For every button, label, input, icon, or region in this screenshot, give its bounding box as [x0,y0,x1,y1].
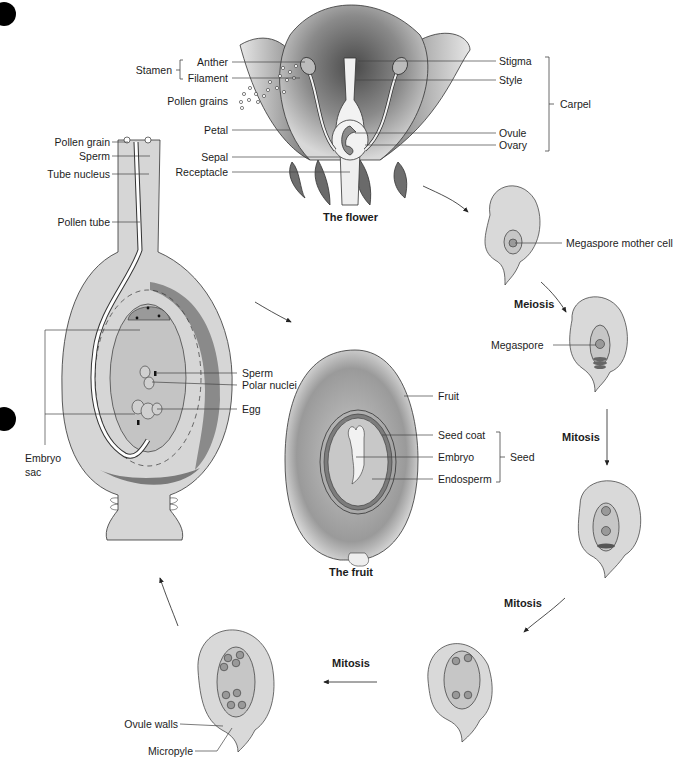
label-ovule: Ovule [499,127,526,139]
fertilization-ovule [45,137,237,540]
label-pollen-tube: Pollen tube [20,216,110,228]
ovule-stage-megaspore [553,297,627,392]
label-sepal: Sepal [180,151,228,163]
label-embryo: Embryo [438,451,474,463]
label-mitosis-3: Mitosis [332,657,370,669]
label-pollen-grains: Pollen grains [150,95,228,107]
label-embryo-sac-line2: sac [25,466,41,478]
caption-the-flower: The flower [323,211,378,223]
label-sperm-top: Sperm [30,150,110,162]
label-sperm: Sperm [242,367,273,379]
label-stigma: Stigma [499,55,532,67]
ovule-stage-megaspore-mother-cell [485,186,562,285]
label-egg: Egg [242,403,261,415]
label-filament: Filament [180,72,228,84]
flower-illustration [176,5,554,205]
label-embryo-sac-line1: Embryo [25,452,61,464]
label-tube-nucleus: Tube nucleus [20,168,110,180]
label-polar-nuclei: Polar nuclei [242,379,297,391]
life-cycle-diagram [0,0,680,768]
label-ovary: Ovary [499,139,527,151]
label-megaspore-mother-cell: Megaspore mother cell [566,237,673,249]
label-micropyle: Micropyle [120,745,193,757]
label-receptacle: Receptacle [160,166,228,178]
binder-hole-middle [0,407,16,431]
binder-hole-top [0,2,16,26]
label-stamen: Stamen [134,64,172,76]
label-seed: Seed [510,451,535,463]
ovule-stage-four-nuclei [428,644,492,742]
label-fruit: Fruit [438,390,459,402]
label-seed-coat: Seed coat [438,429,485,441]
caption-the-fruit: The fruit [329,566,373,578]
label-anther: Anther [180,56,228,68]
label-ovule-walls: Ovule walls [100,718,178,730]
label-megaspore: Megaspore [491,339,544,351]
label-mitosis-1: Mitosis [562,431,600,443]
label-pollen-grain: Pollen grain [30,136,110,148]
label-endosperm: Endosperm [438,473,492,485]
label-style: Style [499,74,522,86]
label-mitosis-2: Mitosis [504,597,542,609]
label-carpel: Carpel [560,98,591,110]
ovule-stage-two-nuclei [578,481,640,578]
ovule-stage-eight-nuclei [180,630,274,752]
label-meiosis: Meiosis [514,298,554,310]
label-petal: Petal [180,124,228,136]
